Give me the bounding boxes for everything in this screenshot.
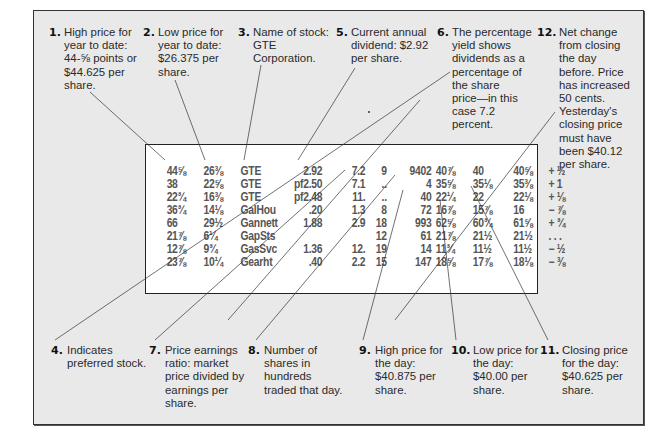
callout-8-volume: 8. Number of shares in hundreds traded t… xyxy=(248,344,359,397)
callout-1-year-high: 1. High price for year to date: 44-⅝ poi… xyxy=(49,26,154,92)
callout-9-day-high: 9. High price for the day: $40.875 per s… xyxy=(359,344,465,397)
callout-2-year-low: 2. Low price for year to date: $26.375 p… xyxy=(143,26,248,79)
callout-3-stock-name: 3. Name of stock: GTE Corporation. xyxy=(238,26,343,66)
callout-5-dividend: 5. Current annual dividend: $2.92 per sh… xyxy=(336,26,446,66)
callout-12-net-change: 12. Net change from closing the day befo… xyxy=(537,26,649,171)
callout-7-pe-ratio: 7. Price earnings ratio: market price di… xyxy=(149,344,260,410)
stray-dot xyxy=(368,111,370,113)
callout-6-yield: 6. The percentage yield shows dividends … xyxy=(437,26,547,132)
callout-11-close: 11. Closing price for the day: $40.625 p… xyxy=(540,344,652,397)
stock-quote-table: 44⅝ 26⅜ GTE 2.92 7.2 9 9402 40⅞ 40 40⅝ +… xyxy=(145,144,538,294)
callout-4-preferred: 4. Indicates preferred stock. xyxy=(51,344,162,370)
